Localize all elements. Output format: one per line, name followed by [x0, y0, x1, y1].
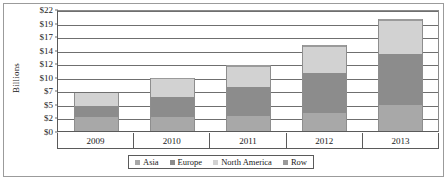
bar-slot [134, 11, 210, 131]
stacked-bar-chart: Billions $0$2$5$7$10$12$14$17$19$22 2009… [0, 0, 447, 180]
bar-segment-north-america[interactable] [303, 47, 346, 73]
legend-label: Row [291, 157, 307, 167]
bar-segment-asia[interactable] [303, 113, 346, 131]
bar-segment-asia[interactable] [151, 117, 194, 131]
legend-item-europe[interactable]: Europe [170, 157, 203, 167]
plot-area [57, 10, 439, 132]
y-axis-tick-label: $7 [44, 87, 53, 96]
chart-legend: AsiaEuropeNorth AmericaRow [128, 155, 314, 169]
bar-segment-asia[interactable] [227, 116, 270, 131]
y-axis-tick-label: $10 [40, 73, 54, 82]
y-axis-tick-labels: $0$2$5$7$10$12$14$17$19$22 [24, 10, 55, 132]
x-axis-label-2009: 2009 [58, 133, 134, 148]
x-axis-label-2012: 2012 [287, 133, 363, 148]
legend-item-north-america[interactable]: North America [213, 157, 272, 167]
y-axis-tick-label: $14 [40, 46, 54, 55]
bar-segment-europe[interactable] [303, 73, 346, 113]
y-axis-tick-label: $19 [40, 19, 54, 28]
legend-label: Europe [178, 157, 203, 167]
stacked-bar[interactable] [74, 93, 119, 131]
y-axis-tick-label: $12 [40, 60, 54, 69]
y-axis-tick-label: $5 [44, 100, 53, 109]
y-axis-tick-label: $2 [44, 114, 53, 123]
y-axis-title: Billions [8, 38, 24, 118]
legend-item-asia[interactable]: Asia [135, 157, 159, 167]
legend-item-row[interactable]: Row [283, 157, 307, 167]
legend-swatch-icon [135, 160, 140, 165]
y-axis-tick-label: $0 [44, 128, 53, 137]
stacked-bar[interactable] [302, 45, 347, 131]
bar-segment-europe[interactable] [227, 87, 270, 116]
bars-layer [58, 11, 438, 131]
stacked-bar[interactable] [378, 19, 423, 131]
x-axis-label-2010: 2010 [134, 133, 210, 148]
bar-slot [362, 11, 438, 131]
bar-slot [58, 11, 134, 131]
bar-segment-north-america[interactable] [75, 93, 118, 106]
legend-swatch-icon [213, 160, 218, 165]
stacked-bar[interactable] [226, 65, 271, 131]
y-axis-title-label: Billions [11, 63, 21, 93]
bar-segment-north-america[interactable] [227, 67, 270, 86]
legend-swatch-icon [283, 160, 288, 165]
x-axis-category-labels: 20092010201120122013 [57, 133, 439, 149]
bar-slot [286, 11, 362, 131]
legend-label: North America [221, 157, 272, 167]
y-axis-tick-label: $17 [40, 33, 54, 42]
bar-segment-asia[interactable] [379, 105, 422, 131]
bar-segment-europe[interactable] [151, 97, 194, 116]
bar-segment-europe[interactable] [75, 106, 118, 117]
bar-slot [210, 11, 286, 131]
legend-label: Asia [143, 157, 159, 167]
legend-swatch-icon [170, 160, 175, 165]
bar-segment-north-america[interactable] [379, 21, 422, 54]
bar-segment-europe[interactable] [379, 54, 422, 105]
stacked-bar[interactable] [150, 78, 195, 131]
y-axis-tick-label: $22 [40, 6, 54, 15]
x-axis-label-2011: 2011 [210, 133, 286, 148]
bar-segment-north-america[interactable] [151, 79, 194, 97]
x-axis-label-2013: 2013 [363, 133, 438, 148]
bar-segment-asia[interactable] [75, 117, 118, 131]
